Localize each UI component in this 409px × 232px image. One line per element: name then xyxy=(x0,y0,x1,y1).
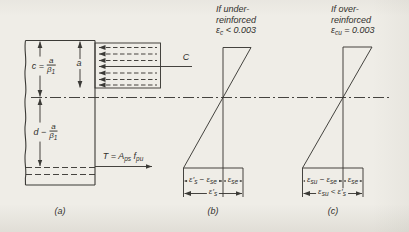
tendon-lines xyxy=(26,167,152,175)
stress-block-outline xyxy=(95,43,161,88)
strain-b-dim-total-label: ε′s xyxy=(207,188,219,198)
dim-c-fraction: a β1 xyxy=(46,57,56,76)
dim-d-denominator: β1 xyxy=(48,132,58,142)
beam-left-wavy-edge xyxy=(25,41,26,186)
strain-c-dim-right-label: εse xyxy=(346,176,360,186)
dim-label-d: d − a β1 xyxy=(32,123,61,142)
figure-c-caption: If over- reinforced εcu = 0.003 xyxy=(331,4,375,37)
dim-c-denominator: β1 xyxy=(46,66,56,76)
figure-c-label: (c) xyxy=(328,207,339,217)
strain-diagram-c xyxy=(303,47,373,197)
figure-b-caption: If under- reinforced εc < 0.003 xyxy=(216,4,256,37)
stress-block xyxy=(95,43,192,88)
dim-d-prefix: d − xyxy=(34,127,47,137)
figure-b-label: (b) xyxy=(208,207,219,217)
strain-b-diagonal xyxy=(184,48,252,169)
dim-c-prefix: c = xyxy=(32,61,44,71)
strain-c-dim-left-label: εsu − εse xyxy=(305,176,339,186)
compression-resultant-label: C xyxy=(183,53,190,63)
dim-d-fraction: a β1 xyxy=(48,123,58,142)
strain-b-dim-left-label: ε′s − εse xyxy=(187,176,219,186)
figure-c-caption-line3: εcu = 0.003 xyxy=(331,25,375,37)
figure-b-caption-line1: If under- xyxy=(216,4,256,15)
dim-label-a: a xyxy=(74,59,83,69)
figure-c-caption-line2: reinforced xyxy=(331,15,375,26)
tension-resultant-label: T = Aps fpu xyxy=(103,152,144,163)
figure-c-caption-line1: If over- xyxy=(331,4,375,15)
figure-b-caption-line2: reinforced xyxy=(216,15,256,26)
strain-c-diagonal xyxy=(303,47,373,168)
dim-label-c: c = a β1 xyxy=(30,57,58,76)
strain-b-dim-right-label: εse xyxy=(226,176,240,186)
figure-a-label: (a) xyxy=(55,207,66,217)
strain-diagram-figure: c = a β1 d − a β1 a C T = Aps fpu (a) If… xyxy=(0,0,409,232)
figure-b-caption-line3: εc < 0.003 xyxy=(216,25,256,37)
strain-c-dim-total-label: εsu < ε′s xyxy=(316,188,348,198)
